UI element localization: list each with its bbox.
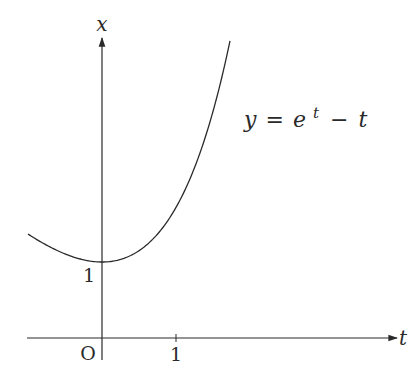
origin-label: O xyxy=(80,342,96,364)
tick-label-x1: 1 xyxy=(83,264,95,286)
formula-minus: − xyxy=(330,107,348,132)
t-axis-label: t xyxy=(399,326,408,350)
x-axis-label: x xyxy=(96,12,107,36)
formula-t: t xyxy=(358,107,367,132)
formula-eq: = xyxy=(265,107,283,132)
graph: x t O 1 1 y = e t − t xyxy=(0,0,414,385)
curve-exp-minus-t xyxy=(28,41,230,262)
formula-e: e xyxy=(293,107,306,132)
formula-y: y xyxy=(243,107,257,132)
tick-label-t1: 1 xyxy=(170,343,182,365)
curve-formula-label: y = e t − t xyxy=(243,98,367,132)
formula-exp: t xyxy=(313,104,320,122)
